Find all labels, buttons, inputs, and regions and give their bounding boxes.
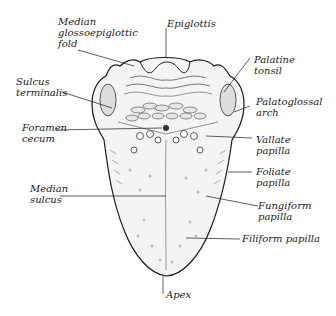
right-tonsil — [220, 84, 236, 116]
label-foliate-papilla: Foliate papilla — [256, 166, 291, 188]
label-epiglottis: Epiglottis — [167, 18, 216, 29]
label-apex: Apex — [166, 289, 191, 300]
label-median-glossoepiglottic-fold: Median glossoepiglottic fold — [58, 16, 138, 49]
label-palatine-tonsil: Palatine tonsil — [254, 54, 295, 76]
tongue-outline — [92, 58, 244, 277]
label-median-sulcus: Median sulcus — [30, 183, 68, 205]
tongue-diagram: Median glossoepiglottic fold Epiglottis … — [0, 0, 336, 316]
label-vallate-papilla: Vallate papilla — [256, 134, 291, 156]
label-fungiform-papilla: Fungiform papilla — [258, 200, 311, 222]
label-sulcus-terminalis: Sulcus terminalis — [16, 76, 67, 98]
left-tonsil — [100, 84, 116, 116]
label-palatoglossal-arch: Palatoglossal arch — [256, 96, 322, 118]
tongue-illustration — [0, 0, 336, 316]
label-filiform-papilla: Filiform papilla — [242, 233, 320, 244]
foramen-cecum — [163, 125, 169, 131]
label-foramen-cecum: Foramen cecum — [22, 122, 67, 144]
